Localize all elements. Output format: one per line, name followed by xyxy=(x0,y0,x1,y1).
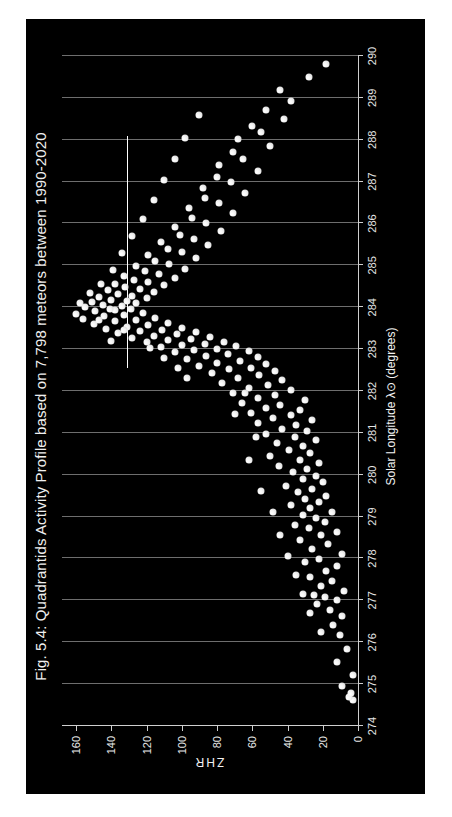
x-tick-label: 279 xyxy=(366,507,378,525)
y-tick-label: 20 xyxy=(317,736,329,772)
data-point xyxy=(263,107,270,114)
data-point xyxy=(203,219,210,226)
data-point xyxy=(124,297,131,304)
data-point xyxy=(106,306,113,313)
data-point xyxy=(120,312,127,319)
data-point xyxy=(187,336,194,343)
data-point xyxy=(339,551,346,558)
gridline-vertical xyxy=(62,558,358,559)
data-point xyxy=(140,216,147,223)
data-point xyxy=(131,277,138,284)
data-point xyxy=(115,290,122,297)
x-tick-label: 278 xyxy=(366,549,378,567)
data-point xyxy=(76,300,83,307)
x-tick-label: 282 xyxy=(366,382,378,400)
data-point xyxy=(120,272,127,279)
gridline-vertical xyxy=(62,55,358,56)
data-point xyxy=(252,434,259,441)
data-point xyxy=(277,532,284,539)
data-point xyxy=(110,266,117,273)
data-point xyxy=(155,270,162,277)
chart-title: Fig. 5.4: Quadrantids Activity Profile b… xyxy=(32,19,49,794)
data-point xyxy=(300,443,307,450)
data-point xyxy=(307,449,314,456)
data-point xyxy=(291,522,298,529)
data-point xyxy=(178,248,185,255)
y-tick xyxy=(358,726,359,731)
data-point xyxy=(184,356,191,363)
data-point xyxy=(201,195,208,202)
gridline-vertical xyxy=(62,641,358,642)
x-tick xyxy=(358,181,363,182)
data-point xyxy=(96,293,103,300)
y-tick xyxy=(323,726,324,731)
y-tick xyxy=(182,726,183,731)
data-point xyxy=(309,546,316,553)
data-point xyxy=(258,488,265,495)
data-point xyxy=(277,87,284,94)
data-point xyxy=(205,242,212,249)
data-point xyxy=(323,492,330,499)
data-point xyxy=(295,489,302,496)
data-point xyxy=(129,233,136,240)
data-point xyxy=(219,379,226,386)
data-point xyxy=(127,305,134,312)
data-point xyxy=(323,60,330,67)
y-tick-label: 0 xyxy=(352,736,364,772)
x-tick-label: 280 xyxy=(366,466,378,484)
data-point xyxy=(147,345,154,352)
data-point xyxy=(235,135,242,142)
data-point xyxy=(99,301,106,308)
x-tick-label: 288 xyxy=(366,131,378,149)
data-point xyxy=(288,98,295,105)
data-point xyxy=(217,228,224,235)
plot-area xyxy=(62,56,358,726)
data-point xyxy=(296,456,303,463)
data-point xyxy=(307,505,314,512)
data-point xyxy=(171,274,178,281)
data-point xyxy=(189,215,196,222)
data-point xyxy=(277,402,284,409)
data-point xyxy=(312,472,319,479)
data-point xyxy=(214,173,221,180)
data-point xyxy=(80,315,87,322)
data-point xyxy=(96,316,103,323)
data-point xyxy=(347,690,354,697)
data-point xyxy=(164,337,171,344)
data-point xyxy=(316,499,323,506)
data-point xyxy=(312,437,319,444)
data-point xyxy=(171,349,178,356)
data-point xyxy=(288,412,295,419)
data-point xyxy=(92,308,99,315)
data-point xyxy=(238,399,245,406)
data-point xyxy=(145,322,152,329)
x-tick-label: 286 xyxy=(366,214,378,232)
data-point xyxy=(235,374,242,381)
data-point xyxy=(233,343,240,350)
data-point xyxy=(143,295,150,302)
data-point xyxy=(286,446,293,453)
data-point xyxy=(279,425,286,432)
x-axis-line xyxy=(358,56,359,726)
y-tick xyxy=(111,726,112,731)
data-point xyxy=(120,327,127,334)
data-point xyxy=(272,392,279,399)
data-point xyxy=(309,417,316,424)
data-point xyxy=(319,479,326,486)
data-point xyxy=(318,628,325,635)
data-point xyxy=(184,375,191,382)
x-tick-label: 277 xyxy=(366,591,378,609)
data-point xyxy=(249,122,256,129)
data-point xyxy=(245,457,252,464)
data-point xyxy=(272,367,279,374)
data-point xyxy=(178,324,185,331)
data-point xyxy=(316,556,323,563)
data-point xyxy=(208,369,215,376)
data-point xyxy=(263,404,270,411)
data-point xyxy=(231,411,238,418)
data-point xyxy=(133,263,140,270)
data-point xyxy=(256,372,263,379)
data-point xyxy=(258,129,265,136)
data-point xyxy=(196,362,203,369)
data-point xyxy=(284,553,291,560)
